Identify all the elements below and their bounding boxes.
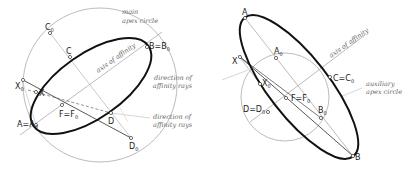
note-apex-circle: apex circle [366, 88, 402, 96]
label-b0: B0 [318, 106, 327, 116]
direction-pointer [222, 70, 248, 80]
label-d0: D0 [129, 142, 138, 152]
aux-pointer [340, 88, 362, 97]
note-main: main [122, 8, 138, 16]
note-direction: direction of [154, 74, 194, 82]
right-figure: axis of affinity direction of affinity r… [153, 0, 402, 169]
label-d: D=D0 [243, 105, 265, 115]
label-x0: X0 [262, 79, 271, 89]
label-f: F=F0 [291, 94, 310, 104]
label-x: X [39, 89, 45, 98]
label-c: C=C0 [333, 74, 354, 84]
note-direction: direction of [153, 113, 193, 121]
label-b: B [355, 153, 361, 162]
label-a: A [242, 8, 248, 17]
label-b: B=B0 [149, 42, 170, 52]
label-d: D [108, 117, 114, 126]
label-a0: A0 [274, 47, 283, 57]
note-affinity-rays: affinity rays [153, 121, 193, 129]
label-c: C [66, 47, 72, 56]
note-affinity-rays: affinity rays [153, 82, 193, 90]
label-x: X [232, 57, 238, 66]
note-apex-circle: apex circle [122, 17, 158, 25]
note-axis: axis of affinity [95, 41, 138, 74]
label-x0: X0 [15, 82, 24, 92]
note-axis: axis of affinity [328, 26, 371, 59]
label-f: F=F0 [59, 110, 78, 120]
note-auxiliary: auxiliary [366, 80, 395, 88]
affinity-diagram: main apex circle axis of affinity direct… [0, 0, 411, 169]
direction-pointer [111, 113, 150, 118]
